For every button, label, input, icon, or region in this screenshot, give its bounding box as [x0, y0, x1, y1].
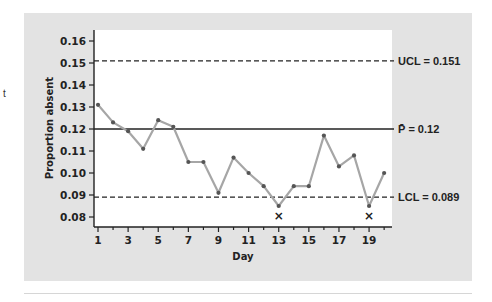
x-tick-label: 11 [241, 234, 256, 246]
x-tick-label: 9 [215, 234, 222, 246]
x-tick-label: 1 [94, 234, 101, 246]
y-tick-label: 0.15 [60, 57, 86, 69]
x-tick-label: 13 [271, 234, 286, 246]
data-point [292, 184, 296, 188]
center-label: P̄ = 0.12 [398, 123, 439, 135]
x-tick-label: 15 [302, 234, 317, 246]
data-point [186, 160, 190, 164]
data-point [231, 156, 235, 160]
data-point [111, 120, 115, 124]
y-tick-label: 0.14 [60, 79, 86, 91]
data-point [247, 171, 251, 175]
data-point [141, 147, 145, 151]
data-point [216, 191, 220, 195]
data-point [171, 125, 175, 129]
out-of-control-marker: × [274, 209, 284, 223]
data-point [382, 171, 386, 175]
y-tick-label: 0.11 [60, 145, 86, 157]
data-point [96, 103, 100, 107]
y-tick-label: 0.09 [60, 189, 86, 201]
lcl-label: LCL = 0.089 [398, 191, 459, 203]
y-tick-label: 0.08 [60, 211, 86, 223]
data-point [126, 129, 130, 133]
x-tick-label: 19 [362, 234, 377, 246]
y-tick-label: 0.10 [60, 167, 86, 179]
data-point [201, 160, 205, 164]
x-tick-label: 7 [185, 234, 192, 246]
data-point [352, 153, 356, 157]
data-point [262, 184, 266, 188]
data-point [277, 204, 281, 208]
data-point [156, 118, 160, 122]
out-of-control-marker: × [364, 209, 374, 223]
x-tick-label: 17 [332, 234, 347, 246]
data-point [337, 164, 341, 168]
y-tick-label: 0.13 [60, 101, 86, 113]
data-point [322, 134, 326, 138]
x-tick-label: 5 [155, 234, 162, 246]
y-axis-title: Proportion absent [44, 77, 55, 180]
ucl-label: UCL = 0.151 [398, 55, 460, 67]
data-point [367, 204, 371, 208]
control-chart: UCL = 0.151P̄ = 0.12LCL = 0.0890.080.090… [0, 0, 492, 302]
data-point [307, 184, 311, 188]
x-tick-label: 3 [124, 234, 131, 246]
x-axis-title: Day [232, 251, 254, 262]
y-tick-label: 0.12 [60, 123, 86, 135]
y-tick-label: 0.16 [60, 35, 86, 47]
